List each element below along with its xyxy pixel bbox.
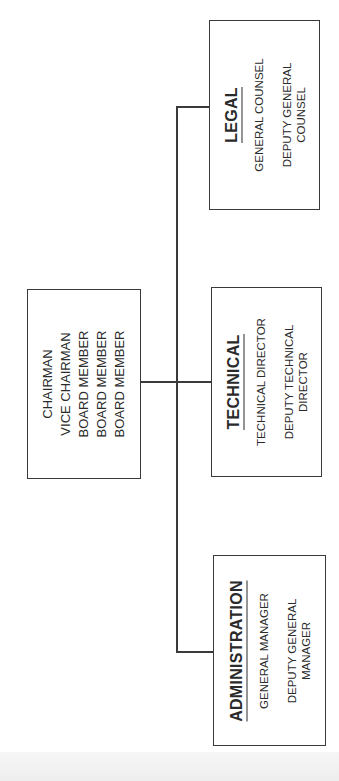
board-line-vice-chairman: VICE CHAIRMAN [57, 332, 75, 435]
board-line-member: BOARD MEMBER [111, 331, 129, 438]
deputy-title: DEPUTY GENERAL [284, 598, 298, 703]
legal-connector [176, 106, 210, 108]
position-title: GENERAL MANAGER [256, 593, 270, 709]
trunk-connector [176, 106, 178, 652]
department-heading: ADMINISTRATION [227, 580, 247, 722]
board-line-member: BOARD MEMBER [93, 331, 111, 438]
deputy-title-cont: DIRECTOR [295, 352, 309, 412]
administration-department-box: ADMINISTRATION GENERAL MANAGER DEPUTY GE… [213, 555, 326, 746]
board-to-technical-connector [140, 381, 212, 383]
board-line-member: BOARD MEMBER [75, 331, 93, 438]
position-title: TECHNICAL DIRECTOR [253, 318, 267, 446]
technical-department-box: TECHNICAL TECHNICAL DIRECTOR DEPUTY TECH… [211, 287, 322, 477]
scan-edge-shadow [0, 752, 339, 781]
deputy-title-cont: COUNSEL [293, 87, 307, 143]
department-heading: TECHNICAL [224, 334, 244, 429]
position-title: GENERAL COUNSEL [251, 58, 265, 171]
administration-connector [176, 651, 213, 653]
deputy-title: DEPUTY GENERAL [279, 63, 293, 168]
board-box: CHAIRMAN VICE CHAIRMAN BOARD MEMBER BOAR… [27, 289, 141, 479]
department-heading: LEGAL [222, 87, 242, 143]
board-line-chairman: CHAIRMAN [39, 349, 57, 418]
deputy-title-cont: MANAGER [298, 621, 312, 679]
legal-department-box: LEGAL GENERAL COUNSEL DEPUTY GENERAL COU… [209, 20, 320, 210]
deputy-title: DEPUTY TECHNICAL [281, 325, 295, 440]
